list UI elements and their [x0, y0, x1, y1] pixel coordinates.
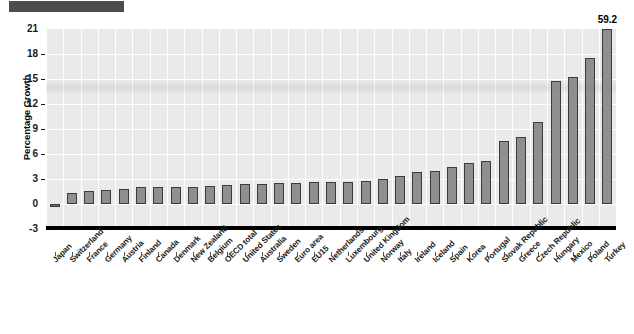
- y-tick-mark: [41, 79, 45, 80]
- bar: [309, 182, 319, 204]
- gridline-x-13: [271, 29, 272, 229]
- bar: [533, 122, 543, 205]
- gridline-x-32: [599, 29, 600, 229]
- bar: [171, 187, 181, 205]
- y-tick-label: -3: [0, 223, 38, 234]
- y-tick-mark: [41, 179, 45, 180]
- gridline-x-31: [582, 29, 583, 229]
- gridline-x-7: [167, 29, 168, 229]
- plot-area: [46, 29, 616, 229]
- bar: [274, 183, 284, 204]
- y-tick-label: 3: [0, 173, 38, 184]
- bar: [205, 186, 215, 204]
- gridline-x-8: [184, 29, 185, 229]
- bar: [343, 182, 353, 205]
- gridline-x-6: [150, 29, 151, 229]
- bar: [602, 29, 612, 204]
- y-tick-mark: [41, 104, 45, 105]
- bar: [50, 204, 60, 207]
- header-block: [9, 1, 124, 12]
- y-tick-label: 6: [0, 148, 38, 159]
- gridline-x-25: [478, 29, 479, 229]
- bar: [412, 172, 422, 205]
- gridline-x-26: [495, 29, 496, 229]
- gridline-x-11: [236, 29, 237, 229]
- bar: [585, 58, 595, 204]
- gridline-x-1: [63, 29, 64, 229]
- bar: [395, 176, 405, 204]
- gridline-x-10: [219, 29, 220, 229]
- turkey-value-label: 59.2: [587, 14, 627, 25]
- gridline-x-20: [392, 29, 393, 229]
- gridline-x-17: [340, 29, 341, 229]
- y-tick-label: 9: [0, 123, 38, 134]
- gridline-x-24: [461, 29, 462, 229]
- gridline-x-23: [443, 29, 444, 229]
- gridline-x-5: [132, 29, 133, 229]
- gridline-x-29: [547, 29, 548, 229]
- gridline-x-9: [202, 29, 203, 229]
- bar: [464, 163, 474, 204]
- gridline-x-4: [115, 29, 116, 229]
- bar: [568, 77, 578, 204]
- bar: [257, 184, 267, 204]
- bar: [291, 183, 301, 204]
- gridline-x-0: [46, 29, 47, 229]
- bar: [101, 190, 111, 204]
- gridline-x-3: [98, 29, 99, 229]
- gridline-x-19: [374, 29, 375, 229]
- bar: [516, 137, 526, 204]
- gridline-x-2: [81, 29, 82, 229]
- gridline-x-14: [288, 29, 289, 229]
- gridline-x-22: [426, 29, 427, 229]
- gridline-x-18: [357, 29, 358, 229]
- bar: [430, 171, 440, 204]
- y-tick-label: 21: [0, 23, 38, 34]
- bar: [153, 187, 163, 205]
- gridline-x-21: [409, 29, 410, 229]
- bar: [378, 179, 388, 204]
- y-tick-mark: [41, 54, 45, 55]
- bar: [551, 81, 561, 204]
- y-tick-label: 15: [0, 73, 38, 84]
- y-tick-mark: [41, 129, 45, 130]
- bar: [326, 182, 336, 204]
- bar: [499, 141, 509, 204]
- bar: [222, 185, 232, 204]
- bar: [136, 187, 146, 204]
- bar: [481, 161, 491, 204]
- bar: [84, 191, 94, 204]
- y-tick-label: 0: [0, 198, 38, 209]
- chart-figure: Percentage Growth -3036912151821 JapanSw…: [0, 0, 634, 334]
- bar: [361, 181, 371, 204]
- gridline-x-30: [564, 29, 565, 229]
- bar: [188, 187, 198, 205]
- gridline-x-16: [322, 29, 323, 229]
- gridline-x-27: [512, 29, 513, 229]
- y-tick-label: 18: [0, 48, 38, 59]
- gridline-x-15: [305, 29, 306, 229]
- x-tick-label: Japan: [51, 242, 74, 265]
- gridline-x-12: [253, 29, 254, 229]
- y-tick-label: 12: [0, 98, 38, 109]
- y-tick-mark: [41, 154, 45, 155]
- bar: [67, 193, 77, 204]
- bar: [119, 189, 129, 204]
- x-tick-label: Korea: [465, 242, 487, 264]
- bar: [240, 184, 250, 204]
- bar: [447, 167, 457, 205]
- gridline-x-28: [530, 29, 531, 229]
